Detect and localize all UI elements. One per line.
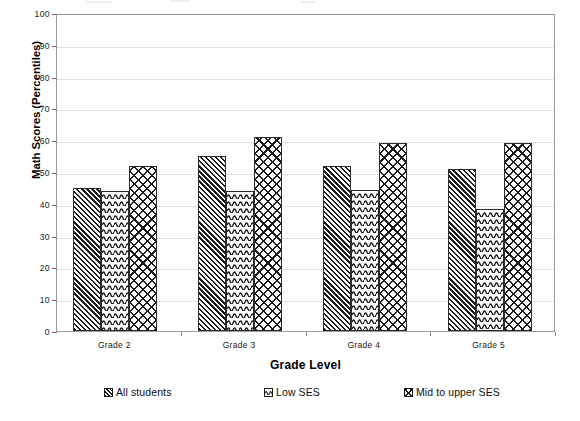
y-tick-label: 80 xyxy=(10,73,50,83)
legend-item[interactable]: Mid to upper SES xyxy=(404,386,500,398)
y-tick-label: 50 xyxy=(10,168,50,178)
bar-group xyxy=(448,15,532,331)
bar xyxy=(351,190,379,332)
legend-label: Low SES xyxy=(276,386,320,398)
legend-item[interactable]: All students xyxy=(104,386,171,398)
x-tick-mark xyxy=(306,332,307,336)
bar xyxy=(254,137,282,331)
y-tick-label: 20 xyxy=(10,263,50,273)
y-tick-label: 0 xyxy=(10,327,50,337)
bar xyxy=(323,166,351,331)
y-tick-mark xyxy=(52,332,57,333)
x-tick-label: Grade 2 xyxy=(54,340,174,350)
scan-artifact xyxy=(300,1,316,3)
x-tick-label: Grade 3 xyxy=(179,340,299,350)
bar xyxy=(73,188,101,331)
bar xyxy=(198,156,226,331)
scan-artifact xyxy=(86,1,112,3)
legend-item[interactable]: Low SES xyxy=(264,386,320,398)
y-tick-label: 100 xyxy=(10,9,50,19)
y-tick-label: 40 xyxy=(10,200,50,210)
bar-group xyxy=(73,15,157,331)
legend-swatch-icon xyxy=(264,388,273,397)
legend-swatch-icon xyxy=(404,388,413,397)
scan-artifact xyxy=(170,0,190,2)
chart-figure: Math Scores (Percentiles) 01020304050607… xyxy=(0,0,580,421)
y-tick-label: 30 xyxy=(10,232,50,242)
bar xyxy=(448,169,476,331)
x-tick-label: Grade 4 xyxy=(304,340,424,350)
x-tick-label: Grade 5 xyxy=(429,340,549,350)
bar xyxy=(476,209,504,331)
bar-group xyxy=(198,15,282,331)
legend-label: All students xyxy=(116,386,171,398)
bar xyxy=(226,191,254,331)
bar xyxy=(129,166,157,331)
x-tick-mark xyxy=(555,332,556,336)
legend-label: Mid to upper SES xyxy=(416,386,500,398)
y-tick-label: 10 xyxy=(10,295,50,305)
chart-legend: All studentsLow SESMid to upper SES xyxy=(56,386,555,406)
x-axis-title: Grade Level xyxy=(56,358,555,372)
bar xyxy=(101,191,129,331)
y-tick-label: 70 xyxy=(10,104,50,114)
y-tick-label: 90 xyxy=(10,41,50,51)
bar-group xyxy=(323,15,407,331)
bar xyxy=(379,143,407,331)
x-tick-mark xyxy=(430,332,431,336)
x-tick-mark xyxy=(181,332,182,336)
legend-swatch-icon xyxy=(104,388,113,397)
bar xyxy=(504,143,532,331)
plot-area xyxy=(56,14,555,332)
y-tick-label: 60 xyxy=(10,136,50,146)
